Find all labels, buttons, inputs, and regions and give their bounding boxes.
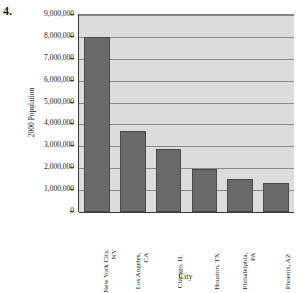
x-axis-tick-labels: New York City,NYLos Angeles,CAChicago, I… — [78, 213, 293, 271]
plot-area — [78, 14, 294, 212]
y-tick-label: 1,000,000 — [22, 185, 74, 193]
y-tick-mark — [70, 145, 74, 146]
x-tick-label-slot: Philadelphia,PA — [221, 213, 257, 271]
bar — [227, 179, 253, 212]
x-tick-label-slot: Phoenix, AZ — [257, 213, 293, 271]
bar — [263, 183, 289, 212]
question-number: 4. — [3, 4, 12, 19]
y-tick-mark — [70, 102, 74, 103]
bar — [120, 131, 146, 212]
y-tick-label: 0 — [22, 207, 74, 215]
x-tick-label: Chicago, IL — [177, 254, 185, 287]
y-tick-label: 2,000,000 — [22, 163, 74, 171]
bar-series — [79, 15, 294, 212]
bar — [156, 149, 182, 212]
y-tick-mark — [70, 189, 74, 190]
x-tick-label: Los Angeles,CA — [135, 253, 150, 290]
y-axis-tick-labels: 9,000,0008,000,0007,000,0006,000,0005,00… — [20, 14, 74, 211]
y-tick-mark — [70, 36, 74, 37]
y-tick-label: 6,000,000 — [22, 76, 74, 84]
x-tick-label: Phoenix, AZ — [285, 253, 293, 288]
y-tick-label: 9,000,000 — [22, 10, 74, 18]
y-tick-mark — [70, 14, 74, 15]
x-axis-title: City — [78, 272, 293, 282]
x-tick-label-slot: Chicago, IL — [150, 213, 186, 271]
y-tick-label: 3,000,000 — [22, 141, 74, 149]
y-tick-mark — [70, 58, 74, 59]
x-tick-label-slot: New York City,NY — [78, 213, 114, 271]
y-tick-label: 7,000,000 — [22, 54, 74, 62]
y-tick-mark — [70, 123, 74, 124]
y-tick-label: 4,000,000 — [22, 119, 74, 127]
x-tick-label-slot: Los Angeles,CA — [114, 213, 150, 271]
y-tick-mark — [70, 211, 74, 212]
bar — [84, 37, 110, 212]
y-tick-mark — [70, 80, 74, 81]
y-tick-label: 5,000,000 — [22, 98, 74, 106]
y-tick-mark — [70, 167, 74, 168]
x-tick-label: Philadelphia,PA — [243, 253, 258, 290]
bar — [192, 169, 218, 212]
y-tick-label: 8,000,000 — [22, 32, 74, 40]
x-tick-label-slot: Houston, TX — [186, 213, 222, 271]
